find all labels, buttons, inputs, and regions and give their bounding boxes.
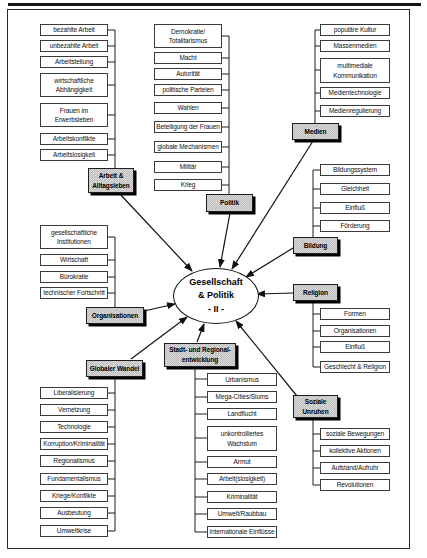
item-bezahlte-arbeit: bezahlte Arbeit [40,24,108,36]
item-regionalismus: Regionalismus [40,455,108,467]
item-populaere-kultur: populäre Kultur [320,24,390,36]
concept-map: Gesellschaft & Politik - II - bezahlte A… [0,0,427,558]
item-medienregulierung: Medienregulierung [320,105,390,117]
item-arbeitsteilung: Arbeitsteilung [40,56,108,68]
category-soziale-unruhen: Soziale Unruhen [293,395,338,418]
category-globaler-wandel: Globaler Wandel [86,360,143,377]
category-religion: Religion [293,284,338,301]
item-politische-parteien: politische Parteien [154,84,222,96]
item-massenmedien: Massenmedien [320,40,390,52]
item-aufstand-aufruhr: Aufstand/Aufruhr [320,462,390,474]
item-ausbeutung: Ausbeutung [40,507,108,519]
item-foerderung: Förderung [320,220,390,232]
item-wirtschaft: Wirtschaft [40,254,108,266]
item-kriminalitaet-stadt: Kriminalität [207,491,277,503]
item-revolutionen: Revolutionen [320,479,390,491]
item-umwelt-raubbau: Umwelt/Raubbau [207,508,277,520]
category-arbeit-alltagsleben: Arbeit & Alltagsleben [88,168,134,193]
item-einfluss-religion: Einfluß [320,341,390,353]
item-autoritaet: Autorität [154,68,222,80]
item-globale-mechanismen: globale Mechanismen [154,141,222,153]
item-beteiligung-der-frauen: Beteiligung der Frauen [154,121,222,133]
category-stadt-regionalentwicklung: Stadt- und Regional- entwicklung [164,343,236,367]
item-fundamentalismus: Fundamentalismus [40,473,108,485]
item-arbeitslosigkeit-stadt: Arbeit(slosigkeit) [207,473,277,485]
item-krieg: Krieg [154,179,222,191]
category-bildung: Bildung [293,237,338,254]
item-arbeitslosigkeit: Arbeitslosigkeit [40,149,108,161]
item-technischer-fortschritt: technischer Fortschritt [40,287,108,299]
item-militaer: Militär [154,161,222,173]
item-armut: Armut [207,456,277,468]
item-macht: Macht [154,52,222,64]
item-urbanismus: Urbanismus [207,373,277,386]
item-liberalisierung: Liberalisierung [40,387,108,399]
item-gesellschaftliche-institutionen: gesellschaftliche Institutionen [40,225,108,249]
item-multimediale-kommunikation: multimediale Kommunikation [320,58,390,83]
item-medientechnologie: Medientechnologie [320,87,390,99]
item-unbezahlte-arbeit: unbezahlte Arbeit [40,40,108,52]
item-soziale-bewegungen: soziale Bewegungen [320,428,390,440]
item-umweltkrise: Umweltkrise [40,525,108,537]
item-einfluss-bildung: Einfluß [320,202,390,214]
category-medien: Medien [292,123,339,140]
item-wirtschaftliche-abhaengigkeit: wirtschaftliche Abhängigkeit [40,73,108,97]
item-internationale-einfluesse: internationale Einflüsse [207,526,277,538]
item-geschlecht-religion: Geschlecht & Religion [320,361,390,373]
item-frauen-im-erwerbsleben: Frauen im Erwerbsleben [40,103,108,127]
item-kollektive-aktionen: kollektive Aktionen [320,445,390,457]
item-gleichheit: Gleichheit [320,183,390,195]
center-node: Gesellschaft & Politik - II - [173,268,259,324]
item-bildungssystem: Bildungssystem [320,164,390,176]
item-formen: Formen [320,308,390,320]
item-arbeitskonflikte: Arbeitskonflikte [40,133,108,145]
item-organisationen-religion: Organisationen [320,325,390,337]
item-wahlen: Wahlen [154,102,222,114]
item-korruption-kriminalitaet: Korruption/Kriminalität [40,438,108,450]
item-kriege-konflikte: Kriege/Konflikte [40,490,108,502]
category-politik: Politik [206,194,253,212]
item-technologie: Technologie [40,421,108,433]
category-organisationen: Organisationen [86,307,144,324]
item-demokratie-totalitarismus: Demokratie/ Totalitarismus [154,24,222,48]
item-buerokratie: Bürokratie [40,271,108,283]
item-landflucht: Landflucht [207,408,277,420]
item-unkontrolliertes-wachstum: unkontrolliertes Wachstum [207,426,277,451]
item-mega-cities-slums: Mega-Cities/Slums [207,391,277,403]
item-vernetzung: Vernetzung [40,404,108,416]
